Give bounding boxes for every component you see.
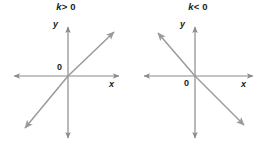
y-axis-label-negative: y xyxy=(180,20,185,29)
coordinate-plane-negative xyxy=(132,0,264,149)
origin-label-positive: 0 xyxy=(57,63,62,72)
variation-line-positive xyxy=(25,32,114,128)
panel-k-negative: k< 0 xyxy=(132,0,264,149)
origin-label-negative: 0 xyxy=(184,79,189,88)
x-axis-label-positive: x xyxy=(109,80,114,89)
coordinate-plane-positive xyxy=(0,0,132,149)
y-axis-label-positive: y xyxy=(53,20,58,29)
panel-k-positive: k> 0 xyxy=(0,0,132,149)
variation-line-negative xyxy=(158,33,244,125)
x-axis-label-negative: x xyxy=(241,80,246,89)
direct-variation-figure: k> 0 xyxy=(0,0,264,149)
